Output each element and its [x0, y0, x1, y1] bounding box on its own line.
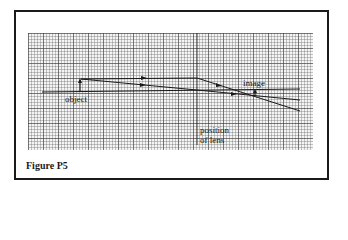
ray-parallel	[81, 78, 300, 111]
image-arrow-icon	[253, 89, 257, 96]
lens-position-label-line2: of lens	[200, 136, 224, 145]
ray-direction-arrow-icon	[216, 83, 222, 87]
image-label: image	[243, 79, 265, 88]
ray-direction-arrow-icon	[231, 92, 237, 96]
optical-axis	[42, 89, 300, 92]
ray-direction-arrow-icon	[140, 83, 146, 87]
object-arrow-icon	[78, 78, 82, 92]
ray-direction-arrow-icon	[141, 76, 147, 80]
lens-position-label-line1: position	[200, 126, 229, 135]
figure-caption: Figure P5	[26, 160, 68, 171]
object-label: object	[65, 95, 87, 104]
